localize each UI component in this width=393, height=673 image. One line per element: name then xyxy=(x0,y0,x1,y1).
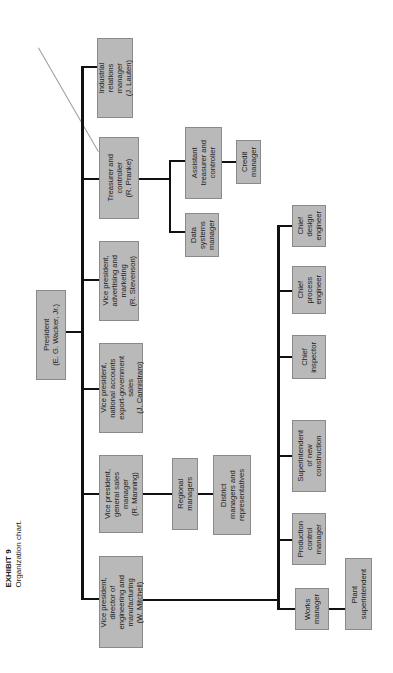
node-treasurer: Treasurer and controller (R. Pranke) xyxy=(99,137,139,219)
connector xyxy=(143,599,279,601)
node-plant-superintendent: Plant superintendent xyxy=(345,558,372,630)
connector xyxy=(81,493,101,495)
connector xyxy=(277,356,292,358)
president-connector xyxy=(66,331,82,333)
chart-caption: EXHIBIT 9 Organization chart. xyxy=(4,520,24,588)
connector xyxy=(169,160,185,162)
connector xyxy=(81,178,101,180)
node-production-control: Production control manager xyxy=(292,513,326,565)
connector xyxy=(329,608,346,610)
node-data-systems: Data systems manager xyxy=(185,213,219,257)
node-president: President (E. G. Wacker, Jr.) xyxy=(36,290,66,380)
connector xyxy=(222,161,236,163)
connector xyxy=(277,608,295,610)
node-chief-inspector: Chief inspector xyxy=(292,335,326,379)
main-bus-line xyxy=(81,66,84,600)
node-district-managers: District managers and representatives xyxy=(213,455,251,535)
connector xyxy=(277,225,280,608)
connector xyxy=(198,493,214,495)
connector xyxy=(277,455,292,457)
connector xyxy=(81,598,101,600)
node-vp-sales: Vice president, general sales manager (R… xyxy=(99,455,143,533)
connector xyxy=(277,225,292,227)
connector xyxy=(139,178,171,180)
node-vp-national: Vice president, national accounts export… xyxy=(99,343,143,433)
node-vp-engineering: Vice president, director of engineering … xyxy=(99,556,143,648)
connector xyxy=(169,231,185,233)
caption-title: Organization chart. xyxy=(14,520,23,588)
connector xyxy=(277,539,292,541)
node-superintendent-construction: Superintendent of new construction xyxy=(292,420,326,492)
node-regional-managers: Regional managers xyxy=(172,458,198,530)
node-chief-process: Chief process engineer xyxy=(292,266,326,314)
connector xyxy=(169,160,171,232)
node-industrial-relations: Industrial relations manager (J. Lauten) xyxy=(97,38,133,118)
node-credit-manager: Credit manager xyxy=(236,140,261,184)
connector xyxy=(81,279,101,281)
connector xyxy=(143,493,173,495)
node-vp-advertising: Vice president, advertising and marketin… xyxy=(99,241,139,321)
node-works-manager: Works manager xyxy=(295,588,329,630)
exhibit-label: EXHIBIT 9 xyxy=(4,520,14,588)
connector xyxy=(81,388,101,390)
connector xyxy=(277,290,292,292)
node-assistant-treasurer: Assistant treasurer and controller xyxy=(185,127,222,199)
pen-mark xyxy=(38,48,99,152)
node-chief-design: Chief design engineer xyxy=(292,205,326,247)
